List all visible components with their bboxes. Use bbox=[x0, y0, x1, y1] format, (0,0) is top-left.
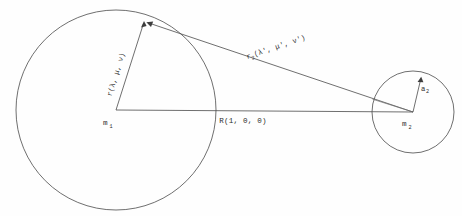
label-radius-vector-1: r(λ, μ, ν) bbox=[105, 52, 126, 97]
semi-axis-2-line bbox=[413, 81, 420, 113]
label-semi-axis-2-subscript: 2 bbox=[426, 89, 429, 95]
figure-canvas: m 1 m 2 R(1, 0, 0) r(λ, μ, ν) r 2 (λ', μ… bbox=[0, 0, 462, 216]
label-semi-axis-2: a 2 bbox=[421, 85, 429, 95]
label-mass-2-subscript: 2 bbox=[409, 125, 412, 131]
semi-axis-2-arrowhead bbox=[418, 77, 424, 83]
label-radius-vector-2: r 2 (λ', μ', ν') bbox=[245, 34, 307, 64]
tangent-chord-line bbox=[373, 99, 414, 112]
label-mass-1-text: m bbox=[103, 119, 108, 127]
radius-vector-1-arrowhead bbox=[141, 21, 147, 28]
label-mass-2: m 2 bbox=[402, 120, 412, 131]
label-separation: R(1, 0, 0) bbox=[219, 117, 267, 125]
diagram-svg: m 1 m 2 R(1, 0, 0) r(λ, μ, ν) r 2 (λ', μ… bbox=[0, 0, 462, 216]
label-radius-vector-2-args: (λ', μ', ν') bbox=[253, 34, 307, 59]
separation-line bbox=[116, 110, 413, 112]
label-mass-1-subscript: 1 bbox=[110, 124, 113, 130]
label-mass-1: m 1 bbox=[103, 119, 113, 130]
radius-vector-2-line bbox=[151, 24, 414, 112]
label-mass-2-text: m bbox=[402, 120, 407, 128]
